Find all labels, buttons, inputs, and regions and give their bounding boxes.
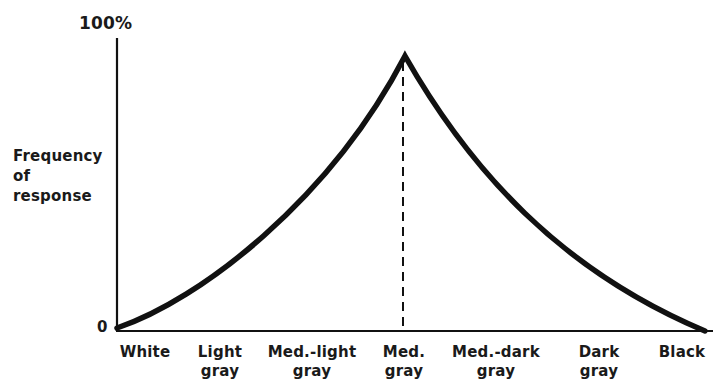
y-tick-0: 0	[97, 318, 108, 337]
x-label-med-gray: Med. gray	[364, 343, 444, 381]
y-axis-label-line3: response	[13, 187, 92, 206]
x-label-black: Black	[642, 343, 720, 362]
x-label-light-gray: Light gray	[180, 343, 260, 381]
x-label-line2: gray	[180, 362, 260, 381]
x-label-dark-gray: Dark gray	[559, 343, 639, 381]
x-label-line1: Med.	[364, 343, 444, 362]
x-label-line2: gray	[559, 362, 639, 381]
x-label-med-dark-gray: Med.-dark gray	[446, 343, 546, 381]
chart-canvas	[0, 0, 720, 389]
x-label-line2: gray	[262, 362, 362, 381]
y-axis-label-line1: Frequency	[13, 147, 103, 166]
x-label-line2: gray	[364, 362, 444, 381]
x-label-line2: gray	[446, 362, 546, 381]
x-label-line1: Med.-dark	[446, 343, 546, 362]
x-label-med-light-gray: Med.-light gray	[262, 343, 362, 381]
x-label-line1: White	[105, 343, 185, 362]
x-label-line1: Light	[180, 343, 260, 362]
x-label-line1: Med.-light	[262, 343, 362, 362]
y-axis-label-line2: of	[13, 167, 30, 186]
response-curve	[117, 56, 705, 331]
y-tick-100: 100%	[79, 14, 132, 33]
x-label-line1: Black	[642, 343, 720, 362]
x-label-line1: Dark	[559, 343, 639, 362]
x-label-white: White	[105, 343, 185, 362]
